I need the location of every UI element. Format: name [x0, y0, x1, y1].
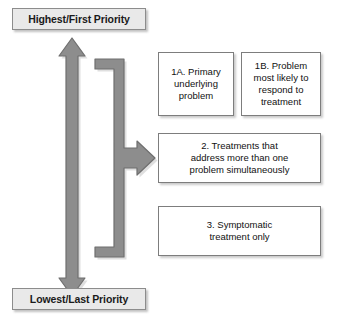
box-1a-text: 1A. Primaryunderlyingproblem — [171, 66, 221, 102]
box-3-text: 3. Symptomatictreatment only — [207, 219, 272, 243]
box-2-treatments-address-more-than-one-problem: 2. Treatments thataddress more than onep… — [158, 133, 321, 183]
box-1a-primary-underlying-problem: 1A. Primaryunderlyingproblem — [158, 52, 234, 116]
priority-double-arrow — [59, 38, 85, 296]
box-1b-text: 1B. Problemmost likely torespond totreat… — [254, 60, 309, 108]
box-1b-problem-most-likely-to-respond: 1B. Problemmost likely torespond totreat… — [241, 52, 321, 116]
box-3-symptomatic-treatment-only: 3. Symptomatictreatment only — [158, 206, 321, 256]
label-lowest-priority: Lowest/Last Priority — [12, 288, 146, 310]
diagram-canvas: Highest/First Priority Lowest/Last Prior… — [0, 0, 342, 325]
label-highest-priority: Highest/First Priority — [12, 8, 146, 30]
box-2-text: 2. Treatments thataddress more than onep… — [190, 140, 290, 176]
